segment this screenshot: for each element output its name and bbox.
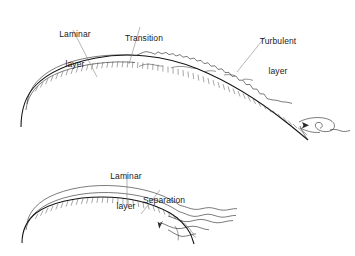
- upper-airfoil-trailing-edge: [300, 126, 308, 140]
- separation-label-line1: Separation: [143, 195, 201, 205]
- turbulent-layer-label: Turbulent layer: [253, 16, 303, 96]
- turbulent-eddy-strokes: [139, 64, 253, 80]
- transition-label: Transition: [118, 13, 170, 63]
- separation-label: Separation: [143, 175, 201, 225]
- laminar-layer-label-line1: Laminar: [50, 29, 100, 39]
- turbulent-layer-label-line2: layer: [253, 66, 303, 76]
- laminar-layer-label-line2: layer: [50, 59, 100, 69]
- vortex-flow-arrowhead: [302, 122, 309, 129]
- trailing-edge-vortex-group: [299, 118, 350, 133]
- laminar-layer-label: Laminar layer: [50, 9, 100, 89]
- vortex-wake-tail: [330, 129, 350, 131]
- turbulent-layer-label-line1: Turbulent: [253, 36, 303, 46]
- boundary-layer-figure: Laminar layer Transition Turbulent layer…: [0, 0, 355, 256]
- transition-label-line1: Transition: [118, 33, 170, 43]
